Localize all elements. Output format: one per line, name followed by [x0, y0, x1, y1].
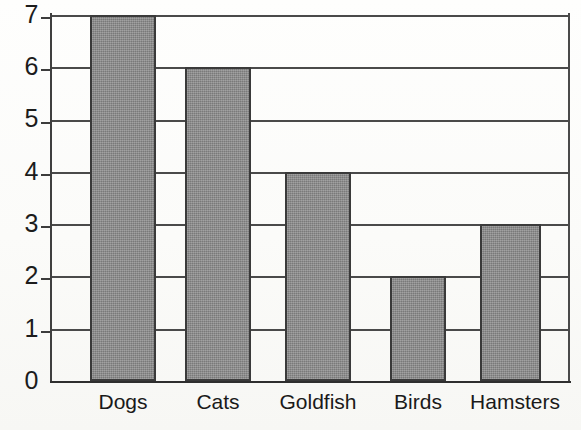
bar-dogs — [90, 15, 156, 381]
y-tick-label-7: 7 — [12, 2, 38, 27]
x-axis-baseline — [50, 381, 571, 383]
y-axis-tick-labels: 7 6 5 4 3 2 1 0 — [8, 15, 38, 381]
bar-cats — [185, 67, 251, 381]
y-tick-label-0: 0 — [12, 368, 38, 393]
y-tick-label-5: 5 — [12, 106, 38, 131]
plot-area — [52, 15, 570, 381]
bar-hamsters — [480, 224, 541, 381]
y-tick-label-3: 3 — [12, 211, 38, 236]
x-axis-tick-labels: Dogs Cats Goldfish Birds Hamsters — [52, 390, 570, 420]
plot-right-border — [568, 13, 570, 383]
x-tick-label-dogs: Dogs — [68, 390, 178, 414]
x-tick-label-hamsters: Hamsters — [450, 390, 580, 414]
y-tick-label-6: 6 — [12, 54, 38, 79]
x-tick-label-cats: Cats — [163, 390, 273, 414]
x-tick-label-goldfish: Goldfish — [258, 390, 378, 414]
y-tick-label-4: 4 — [12, 159, 38, 184]
y-axis-line — [50, 13, 52, 383]
bar-birds — [390, 276, 446, 381]
y-tick-label-1: 1 — [12, 316, 38, 341]
bar-chart-figure: 7 6 5 4 3 2 1 0 Dogs Cats Goldfish Birds — [0, 0, 581, 430]
y-tick-label-2: 2 — [12, 263, 38, 288]
bar-goldfish — [285, 172, 351, 381]
